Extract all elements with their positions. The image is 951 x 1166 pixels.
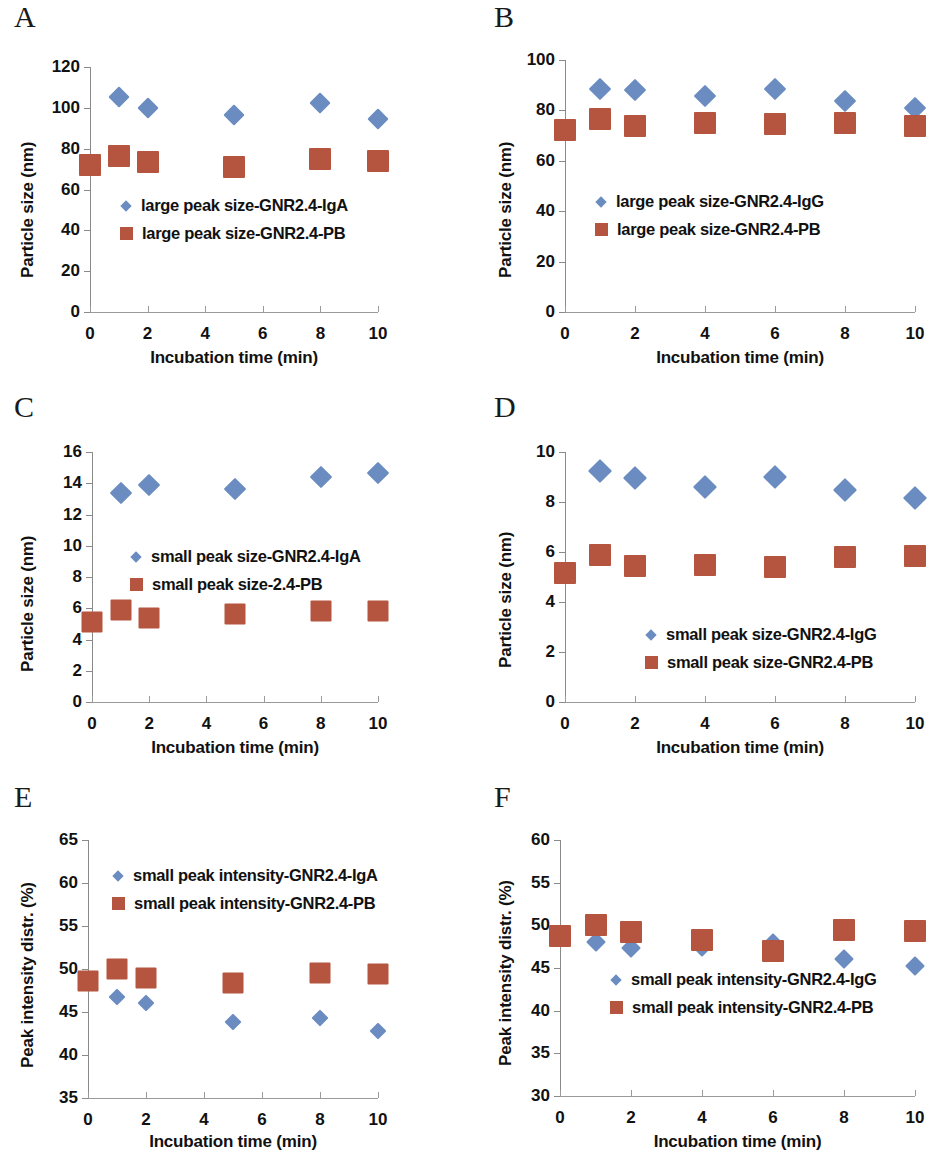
x-axis-tick — [321, 696, 322, 702]
data-point-diamond — [624, 79, 647, 102]
panel-c: C 02468101214160246810Particle size (nm)… — [0, 390, 470, 780]
y-axis-tick-label: 0 — [34, 692, 82, 712]
data-point-diamond — [763, 465, 787, 489]
chart-legend: small peak intensity-GNR2.4-IgAsmall pea… — [112, 866, 378, 922]
y-axis-line — [90, 67, 91, 312]
x-axis-tick — [915, 696, 916, 702]
plot-area-c: 02468101214160246810Particle size (nm)In… — [0, 390, 470, 780]
data-point-diamond — [109, 988, 126, 1005]
y-axis-title: Particle size (nm) — [496, 142, 516, 278]
legend-item: small peak intensity-GNR2.4-PB — [112, 894, 378, 913]
y-axis-tick-label: 10 — [34, 536, 82, 556]
legend-square-icon — [595, 223, 608, 236]
x-axis-tick — [378, 306, 379, 312]
data-point-diamond — [833, 477, 857, 501]
legend-item: small peak intensity-GNR2.4-IgA — [112, 866, 378, 885]
data-point-diamond — [834, 949, 854, 969]
chart-legend: small peak size-GNR2.4-IgGsmall peak siz… — [645, 625, 876, 681]
y-axis-tick-label: 100 — [32, 98, 80, 118]
legend-item-label: small peak size-GNR2.4-IgA — [151, 547, 361, 566]
legend-item: large peak size-GNR2.4-IgG — [595, 192, 824, 211]
data-point-square — [110, 599, 131, 620]
x-axis-tick-label: 4 — [202, 714, 211, 734]
y-axis-tick-label: 65 — [30, 830, 78, 850]
legend-item: small peak size-GNR2.4-IgA — [130, 547, 361, 566]
legend-diamond-icon — [112, 870, 123, 881]
data-point-square — [554, 119, 576, 141]
y-axis-tick — [82, 883, 88, 884]
legend-square-icon — [112, 897, 125, 910]
legend-item-label: small peak intensity-GNR2.4-IgA — [133, 866, 378, 885]
legend-item-label: large peak size-GNR2.4-PB — [142, 224, 345, 243]
y-axis-tick — [559, 211, 565, 212]
x-axis-tick-label: 0 — [560, 324, 569, 344]
y-axis-tick — [559, 161, 565, 162]
data-point-square — [904, 115, 926, 137]
x-axis-tick-label: 10 — [369, 324, 388, 344]
x-axis-title: Incubation time (min) — [90, 348, 378, 368]
legend-item-label: small peak size-2.4-PB — [152, 575, 322, 594]
data-point-square — [833, 919, 855, 941]
data-point-square — [137, 151, 159, 173]
data-point-diamond — [367, 462, 390, 485]
data-point-square — [624, 555, 646, 577]
x-axis-tick — [631, 1090, 632, 1096]
x-axis-tick-label: 8 — [840, 324, 849, 344]
legend-item-label: small peak intensity-GNR2.4-PB — [134, 894, 375, 913]
y-axis-tick-label: 35 — [30, 1088, 78, 1108]
legend-item-label: large peak size-GNR2.4-IgA — [141, 196, 348, 215]
panel-a: A 0204060801001200246810Particle size (n… — [0, 0, 470, 390]
x-axis-tick-label: 4 — [700, 324, 709, 344]
x-axis-tick — [92, 696, 93, 702]
x-axis-line — [88, 1098, 378, 1099]
x-axis-tick-label: 2 — [143, 324, 152, 344]
x-axis-tick-label: 8 — [840, 714, 849, 734]
x-axis-tick-label: 6 — [770, 324, 779, 344]
x-axis-tick-label: 10 — [906, 714, 925, 734]
data-point-diamond — [589, 78, 612, 101]
y-axis-title: Particle size (nm) — [18, 142, 38, 278]
data-point-diamond — [903, 486, 927, 510]
y-axis-tick — [84, 67, 90, 68]
legend-item-label: small peak size-GNR2.4-PB — [667, 653, 873, 672]
x-axis-tick-label: 6 — [259, 714, 268, 734]
x-axis-tick — [204, 1092, 205, 1098]
data-point-diamond — [370, 1022, 387, 1039]
x-axis-tick-label: 10 — [369, 714, 388, 734]
data-point-square — [691, 929, 713, 951]
x-axis-tick-label: 6 — [258, 324, 267, 344]
data-point-square — [624, 115, 646, 137]
x-axis-tick-label: 4 — [200, 324, 209, 344]
x-axis-tick — [705, 306, 706, 312]
data-point-square — [834, 546, 856, 568]
data-point-square — [108, 145, 130, 167]
y-axis-tick — [84, 108, 90, 109]
data-point-square — [764, 556, 786, 578]
x-axis-line — [90, 312, 378, 313]
x-axis-title: Incubation time (min) — [92, 738, 378, 758]
data-point-square — [589, 108, 611, 130]
y-axis-tick — [86, 702, 92, 703]
y-axis-title: Peak intensity distr. (%) — [18, 882, 38, 1068]
y-axis-tick — [559, 702, 565, 703]
y-axis-tick-label: 60 — [502, 830, 550, 850]
y-axis-tick — [554, 840, 560, 841]
x-axis-tick-label: 4 — [697, 1108, 706, 1128]
data-point-diamond — [312, 1010, 329, 1027]
x-axis-line — [560, 1096, 915, 1097]
y-axis-tick — [554, 1096, 560, 1097]
x-axis-tick — [773, 1090, 774, 1096]
y-axis-tick-label: 4 — [34, 630, 82, 650]
data-point-diamond — [588, 459, 612, 483]
data-point-diamond — [224, 477, 247, 500]
x-axis-tick-label: 0 — [87, 714, 96, 734]
y-axis-tick — [554, 883, 560, 884]
legend-item-label: large peak size-GNR2.4-PB — [617, 220, 820, 239]
x-axis-tick — [705, 696, 706, 702]
x-axis-tick-label: 2 — [141, 1110, 150, 1130]
x-axis-tick — [915, 1090, 916, 1096]
y-axis-tick-label: 0 — [507, 302, 555, 322]
data-point-diamond — [834, 89, 857, 112]
x-axis-tick — [90, 306, 91, 312]
panel-b: B 0204060801000246810Particle size (nm)I… — [470, 0, 951, 390]
